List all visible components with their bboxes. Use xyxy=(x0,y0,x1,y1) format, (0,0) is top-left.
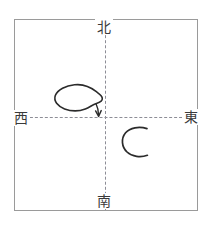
vertical-axis-dashed xyxy=(105,20,106,210)
horizontal-axis-dashed xyxy=(15,117,197,118)
direction-label-south: 南 xyxy=(95,193,113,209)
diagram-frame xyxy=(14,19,198,211)
direction-label-east: 東 xyxy=(182,109,200,125)
compass-diagram: 北 東 南 西 xyxy=(0,0,214,226)
direction-label-west: 西 xyxy=(12,110,30,126)
direction-label-north: 北 xyxy=(95,19,113,35)
